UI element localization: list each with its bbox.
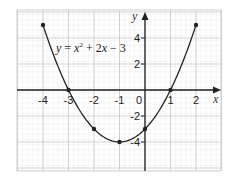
x-tick-label: -4 [38, 94, 48, 106]
x-tick-label: -1 [115, 94, 125, 106]
x-tick-label: -2 [89, 94, 99, 106]
y-axis-label: y [131, 9, 138, 23]
data-point [168, 88, 172, 92]
axes [17, 12, 221, 171]
quadratic-graph: -4-3-2-101242-2-4 x y y = x2 + 2x − 3 [0, 0, 238, 181]
equation-annotation: y = x2 + 2x − 3 [55, 41, 126, 55]
data-point [117, 140, 121, 144]
y-axis-arrow-icon [142, 12, 149, 20]
data-point [92, 127, 96, 131]
y-tick-label: -2 [130, 110, 140, 122]
y-tick-label: 2 [134, 58, 140, 70]
y-tick-label: 4 [134, 32, 140, 44]
data-point [194, 23, 198, 27]
x-tick-label: 0 [136, 94, 142, 106]
data-point [41, 23, 45, 27]
x-tick-label: 2 [193, 94, 199, 106]
x-tick-label: 1 [167, 94, 173, 106]
x-axis-label: x [212, 92, 219, 106]
data-point [66, 88, 70, 92]
data-point [143, 127, 147, 131]
